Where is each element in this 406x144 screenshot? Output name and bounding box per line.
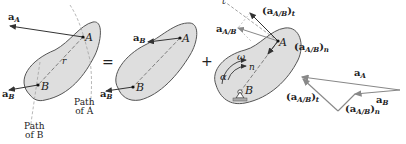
polygon-a-rel-n-label: (aA/B)n <box>345 104 380 115</box>
polygon-a-rel-t-label: (aA/B)t <box>286 92 319 103</box>
radius-label: r <box>62 57 66 66</box>
point-a-label: A <box>85 32 93 43</box>
a-rel-t-label: (aA/B)t <box>262 6 295 17</box>
alpha-label: α <box>220 72 227 82</box>
accel-b-at-a-label: aB <box>133 33 145 44</box>
point-a-label-3: A <box>279 37 287 48</box>
plus-sign: + <box>201 54 213 68</box>
point-a-label-2: A <box>182 33 190 44</box>
accel-b-label: aB <box>2 89 14 100</box>
n-axis-label: n <box>249 63 255 72</box>
point-b-label-3: B <box>245 85 253 96</box>
equals-sign: = <box>102 55 114 69</box>
diagram-graphics <box>0 0 406 144</box>
t-axis-label: t <box>222 0 226 6</box>
accel-a-label: aA <box>8 12 20 23</box>
path-a-label: Pathof A <box>74 98 94 116</box>
point-b-label-2: B <box>136 82 144 93</box>
kinematics-diagram: = + aA A r B aB Pathof A Pathof B aB A B… <box>0 0 406 144</box>
point-b-label: B <box>41 81 49 92</box>
a-rel-label: aA/B <box>216 24 236 35</box>
a-rel-n-label: (aA/B)n <box>294 42 329 53</box>
omega-label: ω <box>237 52 245 62</box>
rigid-body-3 <box>215 2 301 104</box>
path-b-label: Pathof B <box>24 122 44 140</box>
polygon-a-a-label: aA <box>354 68 366 79</box>
accel-b-at-b-label: aB <box>100 89 112 100</box>
